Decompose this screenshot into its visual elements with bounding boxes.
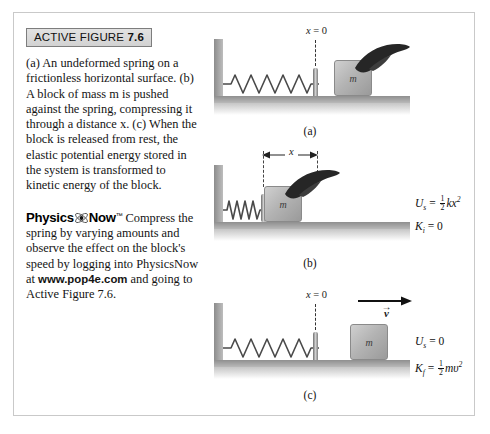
caption-part-a: (a) An undeformed spring on a frictionle… xyxy=(26,56,178,85)
panel-c-equation-kinetic-energy: Kf = 12mυ2 xyxy=(415,356,462,381)
diagram-column: x = 0 m (a) xyxy=(210,13,475,415)
panel-c-equation-potential-energy: Us = 0 xyxy=(415,333,462,354)
panel-b-one-half-fraction: 12 xyxy=(440,195,446,212)
caption-column: ACTIVE FIGURE 7.6 (a) An undeformed spri… xyxy=(14,13,210,415)
panel-a-spring-plate xyxy=(313,68,318,98)
panel-c-ground xyxy=(214,360,410,367)
panel-c-ground-shadow xyxy=(214,367,410,379)
panel-b-hand-icon xyxy=(283,169,341,201)
physicsnow-logo: PhysicsNow™ xyxy=(26,210,122,225)
panel-b: x m Us xyxy=(210,147,475,285)
active-figure-number: 7.6 xyxy=(128,31,144,43)
panel-c: x = 0 → v m xyxy=(210,285,475,415)
panel-b-equation-kinetic-energy: Ki = 0 xyxy=(415,218,460,239)
vector-arrow-icon: → xyxy=(381,301,391,312)
panel-a-ground xyxy=(214,96,410,103)
panel-c-origin-dashed-line xyxy=(315,304,316,330)
panel-a-spring xyxy=(223,72,319,96)
active-figure-container: ACTIVE FIGURE 7.6 (a) An undeformed spri… xyxy=(13,12,475,416)
panel-b-ground xyxy=(214,222,410,229)
atom-icon xyxy=(74,212,89,224)
panel-c-one-half-fraction: 12 xyxy=(438,360,444,377)
panel-a-scene: x = 0 m xyxy=(210,21,410,117)
panel-a-hand-icon xyxy=(353,43,411,75)
panel-c-block-label: m xyxy=(351,337,387,348)
panel-c-spring-plate xyxy=(313,332,318,362)
panel-b-ground-shadow xyxy=(214,229,410,241)
panel-c-scene: x = 0 → v m xyxy=(210,285,410,381)
panel-b-dimension-label: x xyxy=(285,146,298,157)
panel-c-velocity-label: → v xyxy=(384,307,389,319)
trademark-symbol: ™ xyxy=(116,212,123,219)
panel-c-wall xyxy=(214,303,223,367)
panel-a-ground-shadow xyxy=(214,103,410,115)
panel-c-equations: Us = 0 Kf = 12mυ2 xyxy=(415,333,462,383)
panel-c-block: m xyxy=(350,324,388,360)
panel-b-equations: Us = 12kx2 Ki = 0 xyxy=(415,191,460,241)
panel-b-wall xyxy=(214,165,223,229)
active-figure-label: ACTIVE FIGURE xyxy=(34,31,124,43)
physicsnow-paragraph: PhysicsNow™ Compress the spring by varyi… xyxy=(26,208,200,303)
panel-a: x = 0 m (a) xyxy=(210,21,475,147)
panel-c-spring xyxy=(223,336,319,360)
panel-c-caption: (c) xyxy=(210,389,410,401)
panel-b-scene: x m xyxy=(210,147,410,243)
panel-a-wall xyxy=(214,39,223,103)
panel-b-equation-potential-energy: Us = 12kx2 xyxy=(415,191,460,216)
physicsnow-url[interactable]: www.pop4e.com xyxy=(38,273,127,285)
active-figure-header: ACTIVE FIGURE 7.6 xyxy=(26,28,152,47)
panel-a-origin-dashed-line xyxy=(315,40,316,66)
caption-body: (a) An undeformed spring on a frictionle… xyxy=(26,56,200,194)
panel-b-caption: (b) xyxy=(210,257,410,269)
panel-a-caption: (a) xyxy=(210,125,410,137)
panel-b-dimension-dash-left xyxy=(263,151,264,187)
panel-c-origin-label: x = 0 xyxy=(306,289,327,300)
physicsnow-brand-first: Physics xyxy=(26,210,74,225)
physicsnow-brand-second: Now xyxy=(89,210,116,225)
panel-a-origin-label: x = 0 xyxy=(306,25,327,36)
